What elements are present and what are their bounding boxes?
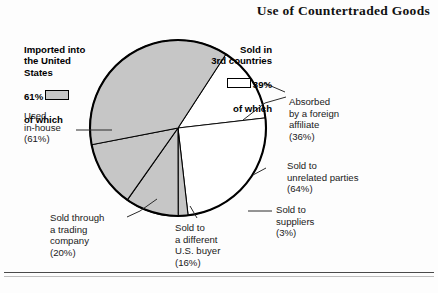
legend-left-percent: 61% bbox=[24, 91, 43, 102]
bottom-rule-shadow bbox=[4, 276, 434, 277]
callout-sold-through-trading: Sold through a trading company (20%) bbox=[50, 212, 150, 258]
callout-sold-unrelated: Sold to unrelated parties (64%) bbox=[287, 160, 397, 195]
legend-left-heading: Imported into the United States bbox=[24, 44, 134, 79]
legend-left-percent-row: 61% bbox=[24, 90, 134, 103]
leader-sold-different-buyer bbox=[190, 206, 197, 218]
legend-right-percent: 39% bbox=[253, 79, 272, 90]
callout-absorbed-affiliate: Absorbed by a foreign affiliate (36%) bbox=[289, 96, 394, 142]
figure-container: Use of Countertraded Goods Imported into… bbox=[0, 0, 438, 293]
callout-sold-to-suppliers: Sold to suppliers (3%) bbox=[276, 204, 366, 239]
gray-swatch-icon bbox=[45, 90, 69, 100]
bottom-rule bbox=[4, 272, 434, 273]
callout-used-in-house: Used in-house (61%) bbox=[24, 110, 104, 145]
leader-sold-unrelated bbox=[253, 168, 266, 175]
legend-right: Sold in 3rd countries 39% of which bbox=[152, 32, 272, 126]
legend-right-suffix: of which bbox=[152, 103, 272, 115]
legend-right-percent-row: 39% bbox=[152, 78, 272, 91]
white-swatch-icon bbox=[227, 78, 251, 88]
callout-sold-different-buyer: Sold to a different U.S. buyer (16%) bbox=[175, 222, 265, 268]
legend-right-heading: Sold in 3rd countries bbox=[152, 44, 272, 67]
